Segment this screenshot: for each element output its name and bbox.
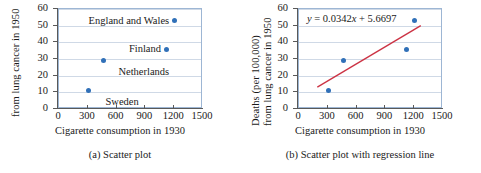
y-tick-0 — [53, 108, 58, 109]
gridline-y-10 — [59, 92, 201, 93]
panel-b-scatter-plot-with-regression: Deaths (per 100,000) from lung cancer in… — [240, 0, 480, 173]
x-tick-label-1200: 1200 — [403, 111, 424, 122]
data-point — [404, 47, 409, 52]
data-point — [164, 47, 169, 52]
x-tick-label-0: 0 — [55, 111, 60, 122]
x-tick-300 — [327, 105, 328, 109]
y-tick-0 — [293, 108, 298, 109]
y-tick-label-60: 60 — [278, 3, 289, 14]
x-tick-600 — [116, 105, 117, 109]
x-tick-label-600: 600 — [348, 111, 364, 122]
x-tick-label-900: 900 — [377, 111, 393, 122]
panel-a-scatter-plot: from lung cancer in 1950 SwedenNetherlan… — [0, 0, 240, 173]
y-tick-60 — [293, 8, 298, 9]
x-tick-label-600: 600 — [108, 111, 124, 122]
y-tick-40 — [53, 41, 58, 42]
y-tick-label-30: 30 — [38, 53, 49, 64]
x-tick-600 — [356, 105, 357, 109]
panel-a-caption: (a) Scatter plot — [0, 150, 240, 161]
y-tick-30 — [53, 58, 58, 59]
panel-b-y-axis-title-line-2: from lung cancer in 1950 — [263, 17, 274, 126]
y-tick-50 — [53, 25, 58, 26]
x-tick-label-0: 0 — [295, 111, 300, 122]
data-point-label: England and Wales — [89, 15, 170, 26]
x-tick-label-300: 300 — [79, 111, 95, 122]
y-tick-20 — [293, 75, 298, 76]
y-tick-label-0: 0 — [283, 103, 288, 114]
y-tick-label-40: 40 — [38, 36, 49, 47]
y-tick-label-40: 40 — [278, 36, 289, 47]
y-tick-10 — [293, 91, 298, 92]
figure-scatter-plots: from lung cancer in 1950 SwedenNetherlan… — [0, 0, 481, 173]
data-point-label: Finland — [129, 44, 161, 55]
y-tick-label-10: 10 — [278, 86, 289, 97]
data-point — [412, 18, 417, 23]
y-tick-40 — [293, 41, 298, 42]
y-tick-label-10: 10 — [38, 86, 49, 97]
x-tick-label-1200: 1200 — [163, 111, 184, 122]
panel-a-x-axis-line — [57, 108, 203, 109]
y-tick-50 — [293, 25, 298, 26]
data-point-label: Sweden — [106, 96, 139, 107]
panel-a-y-axis-title: from lung cancer in 1950 — [11, 8, 22, 117]
y-tick-label-60: 60 — [38, 3, 49, 14]
gridline-y-60 — [59, 9, 201, 10]
gridline-y-30 — [59, 59, 201, 60]
x-tick-1200 — [173, 105, 174, 109]
x-tick-label-900: 900 — [137, 111, 153, 122]
panel-b-y-axis-title-line-1: Deaths (per 100,000) — [251, 35, 262, 126]
regression-equation: y = 0.0342x + 5.6697 — [307, 14, 396, 25]
x-tick-label-300: 300 — [319, 111, 335, 122]
y-tick-10 — [53, 91, 58, 92]
panel-b-x-axis-line — [297, 108, 443, 109]
x-tick-900 — [144, 105, 145, 109]
data-point — [101, 58, 106, 63]
y-tick-label-50: 50 — [278, 19, 289, 30]
data-point-label: Netherlands — [118, 66, 169, 77]
y-tick-label-0: 0 — [43, 103, 48, 114]
panel-a-plot-area: SwedenNetherlandsFinlandEngland and Wale… — [58, 8, 202, 108]
panel-b-plot-area: y = 0.0342x + 5.6697 — [298, 8, 442, 108]
y-tick-60 — [53, 8, 58, 9]
data-point — [341, 58, 346, 63]
y-tick-30 — [293, 58, 298, 59]
panel-b-x-axis-title: Cigarette consumption in 1930 — [240, 126, 480, 137]
panel-b-caption: (b) Scatter plot with regression line — [240, 150, 480, 161]
y-tick-20 — [53, 75, 58, 76]
y-tick-label-20: 20 — [38, 69, 49, 80]
data-point — [172, 18, 177, 23]
panel-a-x-axis-title: Cigarette consumption in 1930 — [0, 126, 240, 137]
x-tick-900 — [384, 105, 385, 109]
y-tick-label-50: 50 — [38, 19, 49, 30]
y-tick-label-20: 20 — [278, 69, 289, 80]
y-tick-label-30: 30 — [278, 53, 289, 64]
x-tick-label-1500: 1500 — [432, 111, 453, 122]
x-tick-1200 — [413, 105, 414, 109]
x-tick-300 — [87, 105, 88, 109]
x-tick-label-1500: 1500 — [192, 111, 213, 122]
